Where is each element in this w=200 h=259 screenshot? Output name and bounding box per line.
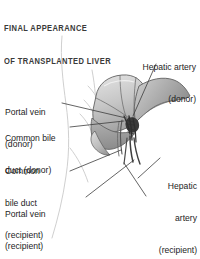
label-portal-vein-recipient-line1: Portal vein	[5, 209, 77, 220]
label-common-bile-duct-recipient-line1: Common	[5, 166, 77, 177]
label-hepatic-artery-recipient: Hepatic artery (recipient)	[116, 160, 197, 259]
label-hepatic-artery-recipient-line2: artery	[116, 213, 197, 224]
label-hepatic-artery-donor-line1: Hepatic artery	[104, 62, 196, 73]
label-hepatic-artery-recipient-line1: Hepatic	[116, 181, 197, 192]
label-hepatic-artery-recipient-line3: (recipient)	[116, 245, 197, 256]
label-common-bile-duct-donor-line1: Common bile	[5, 133, 83, 144]
label-portal-vein-recipient-line2: (recipient)	[5, 241, 77, 252]
label-hepatic-artery-donor: Hepatic artery (donor)	[104, 41, 196, 126]
label-portal-vein-recipient: Portal vein (recipient)	[5, 188, 77, 259]
label-hepatic-artery-donor-line2: (donor)	[104, 94, 196, 105]
